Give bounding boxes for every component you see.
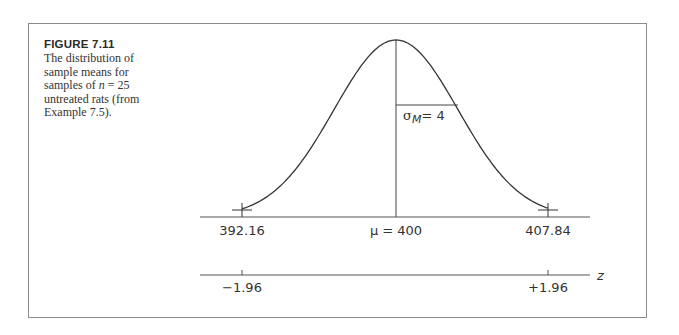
- x-tick-label-right: 407.84: [525, 223, 571, 238]
- x-tick-label-left: 392.16: [219, 223, 265, 238]
- sigma-value: = 4: [421, 108, 444, 123]
- z-axis-label: z: [596, 268, 605, 283]
- sigma-symbol: σ: [403, 108, 412, 123]
- x-tick-label-mean: μ = 400: [370, 223, 422, 238]
- normal-curve: [242, 40, 548, 209]
- z-tick-label-left: −1.96: [222, 280, 262, 295]
- sigma-label: σM= 4: [403, 108, 445, 126]
- z-tick-label-right: +1.96: [528, 280, 568, 295]
- normal-distribution-plot: σM= 4 392.16 μ = 400 407.84 −1.96 +1.96 …: [0, 0, 679, 335]
- sigma-subscript: M: [412, 113, 422, 126]
